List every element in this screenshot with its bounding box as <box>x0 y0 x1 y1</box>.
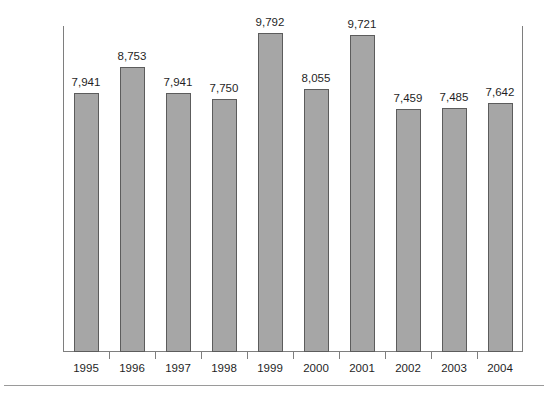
x-tick-mark <box>477 352 478 359</box>
bar-chart-figure: 01,0002,0003,0004,0005,0006,0007,0008,00… <box>0 0 550 400</box>
bar[interactable] <box>258 33 283 352</box>
bar[interactable] <box>304 89 329 352</box>
bar[interactable] <box>396 109 421 352</box>
bar[interactable] <box>488 103 513 352</box>
bar[interactable] <box>212 99 237 352</box>
x-tick-mark <box>293 352 294 359</box>
bar-slot: 8,055 <box>293 26 339 352</box>
x-tick-mark <box>339 352 340 359</box>
bar[interactable] <box>350 35 375 352</box>
bar-series: 7,9418,7537,9417,7509,7928,0559,7217,459… <box>63 26 523 352</box>
y-axis: 01,0002,0003,0004,0005,0006,0007,0008,00… <box>0 0 63 400</box>
bar-slot: 7,941 <box>63 26 109 352</box>
bar[interactable] <box>442 108 467 352</box>
bar-slot: 8,753 <box>109 26 155 352</box>
x-axis-ticks <box>63 352 523 360</box>
x-tick-mark <box>201 352 202 359</box>
bar-slot: 7,750 <box>201 26 247 352</box>
x-tick-mark <box>109 352 110 359</box>
footer-divider <box>4 385 544 386</box>
x-tick-label: 2004 <box>465 360 535 376</box>
bar-slot: 7,941 <box>155 26 201 352</box>
x-tick-mark <box>431 352 432 359</box>
x-tick-mark <box>385 352 386 359</box>
bar[interactable] <box>74 93 99 352</box>
bar-slot: 7,642 <box>477 26 523 352</box>
x-tick-mark <box>247 352 248 359</box>
bar-slot: 7,459 <box>385 26 431 352</box>
bar[interactable] <box>166 93 191 352</box>
x-tick-mark <box>155 352 156 359</box>
footer-caption <box>6 388 546 400</box>
bar-slot: 7,485 <box>431 26 477 352</box>
bar-slot: 9,721 <box>339 26 385 352</box>
x-axis-labels: 1995199619971998199920002001200220032004 <box>63 360 523 378</box>
bar-value-label: 7,642 <box>465 86 535 99</box>
bar[interactable] <box>120 67 145 352</box>
